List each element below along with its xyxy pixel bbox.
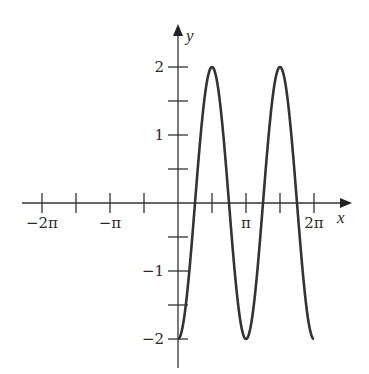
y-axis-arrow-icon [173,24,183,36]
x-tick-label: −2π [26,214,58,232]
y-axis-label: y [184,26,194,45]
x-tick-label: 2π [304,214,324,232]
y-tick-label: 1 [154,126,164,144]
y-tick-label: −2 [142,330,164,348]
x-axis-label: x [336,208,345,227]
x-axis-arrow-icon [340,198,352,208]
function-plot: −2π−ππ2π21−1−2 x y [0,0,369,374]
x-tick-label: π [241,214,251,232]
x-tick-label: −π [99,214,122,232]
y-tick-label: −1 [142,262,164,280]
axes [22,24,352,368]
y-tick-label: 2 [154,58,164,76]
